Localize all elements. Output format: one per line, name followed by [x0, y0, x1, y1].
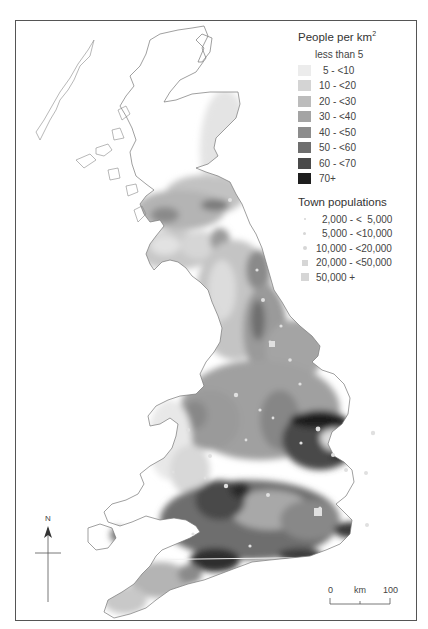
islands [36, 40, 146, 222]
scale-labels: 0 km 100 [328, 585, 396, 615]
legend-label: 50 - <60 [319, 142, 356, 153]
town-symbol-icon [302, 260, 308, 266]
legend-label: 30 - <40 [319, 111, 356, 122]
density-legend-item: 5 - <10 [298, 62, 416, 78]
scale-unit: km [354, 585, 366, 595]
town-symbol-icon [304, 218, 306, 220]
legend-swatch [298, 49, 311, 60]
town-legend-item: 5,000 - <10,000 [298, 227, 416, 242]
town-legend-item: 10,000 - <20,000 [298, 241, 416, 256]
density-legend-item: 30 - <40 [298, 109, 416, 125]
town-symbol-icon [301, 273, 309, 281]
density-legend-item: 20 - <30 [298, 93, 416, 109]
legend-label: 5 - <10 [323, 65, 354, 76]
scale-end: 100 [383, 585, 398, 595]
density-legend-item: less than 5 [298, 47, 416, 63]
town-legend-item: 20,000 - <50,000 [298, 256, 416, 271]
legend-label: 20 - <30 [319, 96, 356, 107]
north-label: N [45, 514, 51, 523]
density-legend: People per km2 less than 55 - <1010 - <2… [298, 30, 416, 186]
legend-swatch [298, 158, 311, 169]
legend-swatch [298, 173, 311, 184]
legend-label: 50,000 + [316, 272, 355, 283]
legend-label: 10,000 - <20,000 [316, 243, 392, 254]
scale-start: 0 [328, 585, 333, 595]
north-arrow-icon [35, 526, 61, 602]
town-legend-title: Town populations [298, 196, 416, 208]
legend-label: 70+ [319, 173, 336, 184]
legend-swatch [298, 142, 311, 153]
legend-label: 60 - <70 [319, 158, 356, 169]
town-symbol-icon [303, 232, 306, 235]
legend-label: 10 - <20 [319, 80, 356, 91]
legend-swatch [298, 127, 311, 138]
density-legend-item: 50 - <60 [298, 140, 416, 156]
town-legend-item: 50,000 + [298, 270, 416, 285]
legend-label: 20,000 - <50,000 [316, 257, 392, 268]
town-legend-item: 2,000 - < 5,000 [298, 212, 416, 227]
legend-swatch [298, 65, 311, 76]
legend-swatch [298, 80, 311, 91]
legend-label: 2,000 - < 5,000 [322, 214, 392, 225]
density-legend-item: 60 - <70 [298, 155, 416, 171]
town-symbol-icon [303, 246, 307, 250]
legend-label: less than 5 [315, 49, 363, 60]
legend-label: 40 - <50 [319, 127, 356, 138]
legend-label: 5,000 - <10,000 [322, 228, 392, 239]
density-legend-title: People per km2 [298, 30, 416, 43]
density-legend-item: 40 - <50 [298, 124, 416, 140]
density-legend-item: 70+ [298, 171, 416, 187]
town-legend: Town populations 2,000 - < 5,0005,000 - … [298, 196, 416, 285]
legend-swatch [298, 111, 311, 122]
legend-swatch [298, 96, 311, 107]
density-legend-item: 10 - <20 [298, 78, 416, 94]
